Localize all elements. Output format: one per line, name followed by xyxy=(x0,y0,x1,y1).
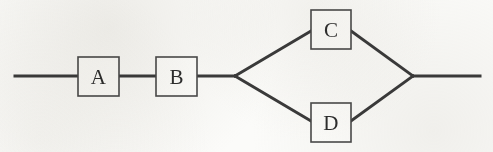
wire-split-to-d xyxy=(235,76,311,121)
block-diagram-svg: A B C D xyxy=(0,0,493,152)
node-c[interactable]: C xyxy=(311,10,351,49)
wire-c-to-merge xyxy=(351,31,413,76)
node-d[interactable]: D xyxy=(311,103,351,142)
node-c-label: C xyxy=(324,18,338,42)
node-a-label: A xyxy=(91,65,107,89)
wire-split-to-c xyxy=(235,31,311,76)
node-b[interactable]: B xyxy=(156,57,197,96)
node-a[interactable]: A xyxy=(78,57,119,96)
block-diagram-canvas: A B C D xyxy=(0,0,493,152)
wire-d-to-merge xyxy=(351,76,413,121)
node-d-label: D xyxy=(323,111,338,135)
node-b-label: B xyxy=(169,65,183,89)
